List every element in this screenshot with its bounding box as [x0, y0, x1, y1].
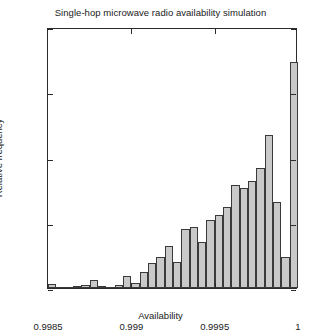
histogram-bar [265, 135, 273, 288]
x-tick-label: 0.9985 [13, 321, 83, 332]
histogram-bar [281, 257, 289, 288]
histogram-bar [90, 280, 98, 288]
y-tick-mark [48, 160, 53, 161]
y-tick-mark [291, 225, 296, 226]
histogram-bar [223, 207, 231, 288]
histogram-bar [81, 285, 89, 288]
histogram-bar [173, 262, 181, 288]
histogram-bar [215, 215, 223, 288]
histogram-bar [73, 286, 81, 288]
histogram-bar [98, 286, 106, 288]
histogram-bar [140, 272, 148, 288]
y-tick-mark [291, 94, 296, 95]
x-tick-mark [215, 283, 216, 288]
histogram-bar [273, 202, 281, 288]
x-tick-label: 1 [263, 321, 321, 332]
y-tick-mark [48, 225, 53, 226]
y-tick-mark [291, 160, 296, 161]
y-tick-mark [291, 290, 296, 291]
histogram-bar [290, 62, 298, 288]
histogram-bar [248, 181, 256, 288]
histogram-bar [190, 227, 198, 288]
y-tick-mark [48, 29, 53, 30]
histogram-figure: Single-hop microwave radio availability … [0, 0, 321, 333]
histogram-bar [198, 242, 206, 288]
histogram-bar [206, 220, 214, 288]
histogram-bar [156, 257, 164, 288]
histogram-bar [106, 287, 114, 288]
y-tick-mark [48, 290, 53, 291]
histogram-bars [48, 29, 296, 288]
histogram-bar [256, 168, 264, 288]
y-tick-mark [48, 94, 53, 95]
histogram-bar [48, 284, 56, 288]
histogram-bar [148, 263, 156, 288]
x-tick-mark [215, 29, 216, 34]
histogram-bar [123, 276, 131, 288]
plot-area: 050100150200 0.99850.9990.99951 [47, 28, 297, 289]
chart-title: Single-hop microwave radio availability … [0, 7, 321, 18]
x-tick-mark [131, 29, 132, 34]
x-tick-mark [131, 283, 132, 288]
histogram-bar [181, 229, 189, 288]
y-tick-mark [291, 29, 296, 30]
histogram-bar [165, 246, 173, 288]
histogram-bar [231, 185, 239, 288]
x-tick-label: 0.9995 [180, 321, 250, 332]
histogram-bar [240, 188, 248, 288]
histogram-bar [56, 287, 64, 288]
histogram-bar [131, 283, 139, 288]
histogram-bar [65, 287, 73, 288]
x-tick-label: 0.999 [96, 321, 166, 332]
histogram-bar [115, 285, 123, 288]
y-axis-title: Relative frequency [0, 119, 4, 198]
x-axis-title: Availability [0, 310, 321, 321]
